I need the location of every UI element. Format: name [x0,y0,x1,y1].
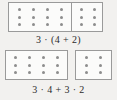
dot [46,16,49,19]
dot [99,71,102,74]
dot [32,16,35,19]
dot [32,8,35,11]
dot-column [56,56,59,74]
dot-column [85,56,88,74]
dot [28,71,31,74]
dot [85,64,88,67]
dot [28,56,31,59]
dot-column [32,8,35,26]
dot-column [18,8,21,26]
bottom-right-array-rectangle [75,50,112,80]
dot-column [28,56,31,74]
dot-column [80,8,83,26]
dot-column [60,8,63,26]
dot [93,16,96,19]
dot [14,71,17,74]
dot [28,64,31,67]
dot [14,64,17,67]
bottom-left-array-rectangle [5,50,68,80]
top-left-dot-group [9,3,71,31]
dot [56,56,59,59]
dot-column [99,56,102,74]
dot [80,23,83,26]
dot [93,23,96,26]
dot [46,23,49,26]
bottom-expression-label: 3 · 4 + 3 · 2 [0,84,117,95]
dot-column [93,8,96,26]
dot [60,16,63,19]
dot-column [42,56,45,74]
dot [80,8,83,11]
dot [18,16,21,19]
dot [42,71,45,74]
dot [99,64,102,67]
top-expression-label: 3 · (4 + 2) [0,34,117,45]
dot [46,8,49,11]
dot [42,56,45,59]
dot [99,56,102,59]
dot [85,56,88,59]
figure-canvas: 3 · (4 + 2) [0,0,117,100]
dot [56,64,59,67]
top-right-dot-group [71,3,104,31]
dot [32,23,35,26]
dot [93,8,96,11]
dot [18,23,21,26]
dot [80,16,83,19]
dot [56,71,59,74]
dot [42,64,45,67]
dot [60,23,63,26]
dot [18,8,21,11]
top-array-rectangle [8,2,103,32]
dot-column [14,56,17,74]
dot [14,56,17,59]
dot [85,71,88,74]
dot-column [46,8,49,26]
dot [60,8,63,11]
